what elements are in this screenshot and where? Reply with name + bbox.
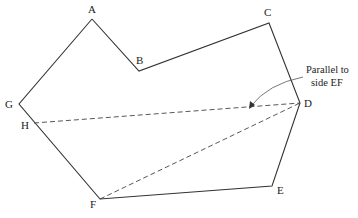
vertex-label-a: A <box>88 3 96 15</box>
polygon-diagram: A B C D E F G H Parallel to side EF <box>0 0 358 218</box>
vertex-label-f: F <box>90 198 96 210</box>
dashed-line-fd <box>100 103 300 199</box>
vertex-label-d: D <box>304 97 312 109</box>
vertex-label-b: B <box>136 54 143 66</box>
polygon-outline <box>19 19 300 199</box>
vertex-label-c: C <box>264 6 271 18</box>
vertex-label-g: G <box>5 98 13 110</box>
annotation-line-2: side EF <box>311 77 343 88</box>
vertex-label-h: H <box>21 119 29 131</box>
vertex-label-e: E <box>277 184 284 196</box>
annotation-line-1: Parallel to <box>306 64 349 75</box>
dashed-line-hd <box>34 103 300 123</box>
